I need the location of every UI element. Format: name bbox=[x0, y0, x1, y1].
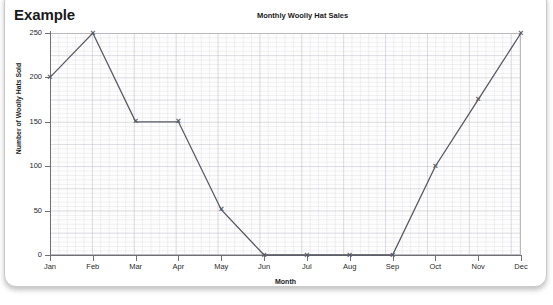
series-polyline bbox=[50, 33, 521, 255]
data-point-marker: × bbox=[46, 73, 55, 82]
data-point-marker: × bbox=[131, 117, 140, 126]
data-point-marker: × bbox=[517, 29, 526, 38]
data-point-marker: × bbox=[174, 117, 183, 126]
data-point-marker: × bbox=[388, 251, 397, 260]
data-series-line bbox=[0, 0, 553, 305]
data-point-marker: × bbox=[260, 251, 269, 260]
data-point-marker: × bbox=[431, 162, 440, 171]
data-point-marker: × bbox=[345, 251, 354, 260]
data-point-marker: × bbox=[302, 251, 311, 260]
data-point-marker: × bbox=[88, 29, 97, 38]
data-point-marker: × bbox=[217, 205, 226, 214]
page-root: Example Monthly Woolly Hat Sales Number … bbox=[0, 0, 553, 305]
data-point-marker: × bbox=[474, 95, 483, 104]
